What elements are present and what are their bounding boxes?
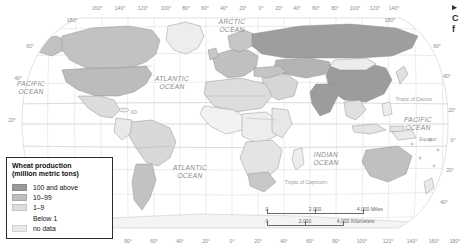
- legend-title-line2: (million metric tons): [12, 170, 107, 178]
- legend-label: 1–9: [33, 204, 44, 211]
- label-tropic-of-cancer: Tropic of Cancer: [396, 96, 433, 102]
- lon-label: 100°: [161, 5, 172, 11]
- ocean-label-pacific-east-2: OCEAN: [405, 124, 430, 131]
- scale-tick-label: 2,000: [309, 206, 322, 212]
- lon-label: 60°: [150, 238, 158, 244]
- lon-label: 80°: [182, 5, 190, 11]
- scale-tick-label: 0: [266, 218, 269, 224]
- legend-swatch: [12, 194, 27, 201]
- lon-label: 60°: [306, 238, 314, 244]
- lon-label: 0°: [230, 238, 235, 244]
- scale-tick-label: 2,000: [299, 218, 312, 224]
- legend-item-100-and-above[interactable]: 100 and above: [12, 182, 107, 192]
- lat-label: 60°: [433, 43, 441, 49]
- lon-label-180-left: 180°: [67, 17, 78, 23]
- lon-label: 20°: [254, 238, 262, 244]
- lon-label: 20°: [202, 238, 210, 244]
- label-tropic-of-capricorn: Tropic of Capricorn: [285, 179, 328, 185]
- scale-tick-label: 0: [266, 206, 269, 212]
- ocean-label-pacific-west-2: OCEAN: [18, 88, 43, 95]
- lat-label: 0°: [451, 137, 456, 143]
- lon-label: 160°: [429, 238, 440, 244]
- ocean-label-indian-2: OCEAN: [313, 159, 338, 166]
- label-equator: Equator: [419, 136, 437, 142]
- ocean-label-indian: INDIAN: [314, 151, 338, 158]
- legend-item-1-9[interactable]: 1–9: [12, 203, 107, 213]
- legend-title: Wheat production (million metric tons): [12, 162, 107, 179]
- side-caption-line-1: ▸: [452, 2, 463, 13]
- lon-label: 60°: [312, 5, 320, 11]
- ocean-label-atlantic-south: ATLANTIC: [172, 164, 207, 171]
- lon-label: 120°: [370, 5, 381, 11]
- lat-label: 60°: [26, 43, 34, 49]
- lon-label: 140°: [407, 238, 418, 244]
- scale-bar: 0 2,000 4,000 Miles 0 2,000 4,000 Kilome…: [263, 206, 388, 232]
- legend-swatch: [12, 225, 27, 232]
- lon-label-180-right: 180°: [385, 17, 396, 23]
- lon-label: 140°: [389, 5, 400, 11]
- world-map-figure: 160° 140° 120° 100° 80° 60° 40° 20° 0° 2…: [0, 0, 463, 246]
- lat-label: 40°: [440, 199, 448, 205]
- legend-label: 100 and above: [33, 184, 78, 191]
- lon-label: 100°: [357, 238, 368, 244]
- legend-swatch: [12, 204, 27, 211]
- legend-label: Below 1: [33, 215, 57, 222]
- legend-label: 10–99: [33, 194, 52, 201]
- lon-label: 180°: [450, 238, 461, 244]
- lon-label: 140°: [115, 5, 126, 11]
- lon-label: 40°: [293, 5, 301, 11]
- bottom-longitude-labels: 80° 60° 40° 20° 0° 20° 40° 60° 80° 100° …: [124, 238, 460, 244]
- lon-label: 120°: [383, 238, 394, 244]
- legend-label: no data: [33, 225, 56, 232]
- lat-label: 40°: [443, 73, 451, 79]
- ocean-label-atlantic-south-2: OCEAN: [177, 172, 202, 179]
- lon-label: 40°: [280, 238, 288, 244]
- side-caption-fragment: ▸ C f: [452, 2, 463, 35]
- region-philippines[interactable]: [382, 102, 392, 116]
- lat-label: 20°: [8, 117, 16, 123]
- lon-label: 40°: [220, 5, 228, 11]
- scale-unit-kilometers: Kilometers: [351, 218, 375, 224]
- lon-label: 160°: [92, 5, 103, 11]
- ocean-label-pacific-east: PACIFIC: [404, 116, 432, 123]
- scale-unit-miles: Miles: [371, 206, 383, 212]
- lon-label: 80°: [331, 5, 339, 11]
- lon-label: 80°: [124, 238, 132, 244]
- scale-tick-label: 4,000: [357, 206, 370, 212]
- lat-label: 20°: [446, 167, 454, 173]
- ocean-label-atlantic-north: ATLANTIC: [154, 75, 189, 82]
- legend-swatch: [12, 215, 27, 222]
- lon-label: 40°: [176, 238, 184, 244]
- scale-tick-label: 4,000: [337, 218, 350, 224]
- lat-label: 20°: [448, 107, 456, 113]
- side-caption-line-2: C: [452, 13, 463, 24]
- scale-bar-miles: 0 2,000 4,000 Miles: [263, 206, 388, 218]
- legend-item-below-1[interactable]: Below 1: [12, 213, 107, 223]
- legend-item-no-data[interactable]: no data: [12, 223, 107, 233]
- lon-label: 0°: [259, 5, 264, 11]
- ocean-label-arctic-2: OCEAN: [219, 26, 244, 33]
- lon-label: 120°: [138, 5, 149, 11]
- lon-label: 20°: [275, 5, 283, 11]
- legend-title-line1: Wheat production: [12, 162, 107, 170]
- lon-label: 80°: [332, 238, 340, 244]
- lon-label: 20°: [239, 5, 247, 11]
- ocean-label-atlantic-north-2: OCEAN: [159, 83, 184, 90]
- scale-bar-kilometers: 0 2,000 4,000 Kilometers: [263, 218, 388, 230]
- lon-label: 60°: [201, 5, 209, 11]
- legend-swatch: [12, 184, 27, 191]
- legend-item-10-99[interactable]: 10–99: [12, 192, 107, 202]
- ocean-label-arctic: ARCTIC: [218, 18, 246, 25]
- side-caption-line-3: f: [452, 24, 463, 35]
- map-legend: Wheat production (million metric tons) 1…: [6, 157, 113, 239]
- region-mongolia[interactable]: [330, 58, 376, 70]
- ocean-label-pacific-west: PACIFIC: [17, 80, 45, 87]
- lon-label: 100°: [350, 5, 361, 11]
